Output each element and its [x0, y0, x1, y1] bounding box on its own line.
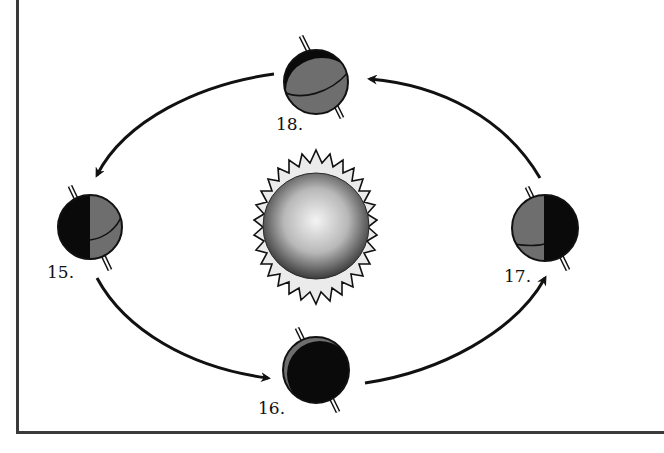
- sun-icon: [254, 150, 377, 304]
- orbit-diagram: 18. 15. 17. 16.: [0, 0, 664, 453]
- orbit-arrow-18-to-15: [97, 74, 274, 175]
- orbit-arrow-16-to-17: [365, 278, 545, 383]
- earth-position-18: [280, 36, 360, 126]
- diagram-canvas: [0, 0, 664, 453]
- earth-position-17: [510, 187, 580, 270]
- earth-position-15: [56, 186, 126, 270]
- position-label-18: 18.: [276, 116, 303, 133]
- earth-position-16: [282, 328, 353, 412]
- position-label-16: 16.: [258, 400, 285, 417]
- position-label-17: 17.: [504, 268, 531, 285]
- orbit-arrow-15-to-16: [97, 278, 268, 378]
- position-label-15: 15.: [47, 264, 74, 281]
- orbit-arrow-17-to-18: [370, 79, 540, 178]
